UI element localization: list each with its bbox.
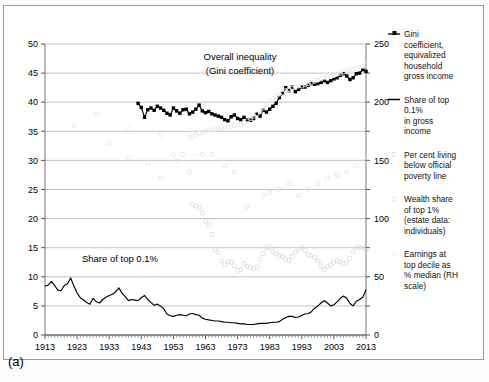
data-point (354, 164, 358, 168)
data-point (232, 170, 236, 174)
data-point (219, 258, 223, 262)
left-axis-tick-35: 35 (28, 127, 38, 137)
x-axis-tick-1913: 1913 (35, 342, 55, 352)
data-point (316, 259, 320, 263)
legend-label-wealth-share-top-1-3: individuals) (404, 226, 446, 236)
legend-marker-square-0 (393, 31, 397, 35)
data-point (264, 102, 268, 106)
data-point-marker (175, 109, 178, 112)
data-point-marker (162, 109, 165, 112)
data-point (290, 254, 294, 258)
left-axis-tick-10: 10 (28, 272, 38, 282)
data-point-marker (351, 76, 354, 79)
overall-inequality-line2: (Gini coefficient) (206, 65, 274, 76)
data-point-marker (229, 115, 232, 118)
data-point (187, 170, 191, 174)
share-top-01-label: Share of top 0.1% (82, 253, 159, 264)
legend-marker-circle-4 (392, 252, 396, 256)
data-point (200, 211, 204, 215)
data-point (303, 249, 307, 253)
data-point (258, 109, 262, 113)
data-point-marker (194, 107, 197, 110)
data-point (171, 152, 175, 156)
data-point-marker (223, 118, 226, 121)
legend-label-earnings-top-decile-2: % median (RH (404, 270, 458, 280)
x-axis-tick-1953: 1953 (163, 342, 183, 352)
legend-label-earnings-top-decile-1: top decile as (404, 260, 451, 270)
data-point (287, 182, 291, 186)
data-point-marker (329, 79, 332, 82)
data-point-marker (188, 112, 191, 115)
panel-label: (a) (8, 352, 24, 370)
data-point-marker (233, 113, 236, 116)
data-point-marker (358, 71, 361, 74)
data-point-marker (197, 103, 200, 106)
right-axis-tick-0: 0 (374, 330, 379, 340)
legend-label-per-cent-living-below-poverty-line-1: below official (404, 160, 452, 170)
data-point (345, 170, 349, 174)
data-point-marker (217, 114, 220, 117)
data-point-marker (178, 112, 181, 115)
legend-label-wealth-share-top-1-2: (estate data: (404, 215, 450, 225)
data-point-marker (152, 109, 155, 112)
data-point (335, 173, 339, 177)
left-axis-tick-50: 50 (28, 39, 38, 49)
legend-label-earnings-top-decile-0: Earnings at (404, 249, 447, 259)
legend-label-share-top-01-gross-income-3: income (404, 126, 431, 136)
data-point (223, 164, 227, 168)
data-point (181, 152, 185, 156)
data-point-marker (239, 118, 242, 121)
legend-label-gini-coefficient-3: household (404, 61, 443, 71)
data-point (261, 251, 265, 255)
left-axis-tick-0: 0 (33, 330, 38, 340)
data-point-marker (294, 90, 297, 93)
left-axis-tick-20: 20 (28, 214, 38, 224)
legend-label-wealth-share-top-1-0: Wealth share (404, 194, 453, 204)
data-point-marker (146, 108, 149, 111)
data-point-marker (181, 108, 184, 111)
legend-label-per-cent-living-below-poverty-line-2: poverty line (404, 171, 447, 181)
data-point-marker (210, 112, 213, 115)
data-point (126, 127, 130, 131)
data-point-marker (143, 116, 146, 119)
x-axis-tick-1923: 1923 (67, 342, 87, 352)
legend-label-gini-coefficient-0: Gini (404, 29, 419, 39)
data-point (319, 264, 323, 268)
data-point (316, 182, 320, 186)
data-point-marker (149, 106, 152, 109)
chart-svg: 0510152025303540455005010015020025019131… (0, 0, 489, 382)
data-point (210, 152, 214, 156)
right-axis-tick-100: 100 (374, 214, 389, 224)
data-point (216, 250, 220, 254)
data-point-marker (213, 113, 216, 116)
x-axis-tick-1963: 1963 (195, 342, 215, 352)
data-point-marker (140, 106, 143, 109)
legend-label-gini-coefficient-4: gross income (404, 71, 454, 81)
data-point-marker (236, 117, 239, 120)
data-point (126, 155, 130, 159)
data-point-marker (136, 102, 139, 105)
data-point-marker (185, 107, 188, 110)
data-point (210, 232, 214, 236)
data-point (258, 257, 262, 261)
data-point-marker (274, 102, 277, 105)
left-axis-tick-40: 40 (28, 97, 38, 107)
data-point (261, 193, 265, 197)
overall-inequality-line1: Overall inequality (204, 51, 277, 62)
data-point-marker (204, 111, 207, 114)
legend-label-gini-coefficient-2: equivalized (404, 50, 446, 60)
legend-marker-circle-3 (392, 197, 396, 201)
x-axis-tick-2003: 2003 (324, 342, 344, 352)
legend-label-share-top-01-gross-income-1: 0.1% (404, 105, 424, 115)
data-point (268, 190, 272, 194)
data-point-marker (265, 110, 268, 113)
legend-label-earnings-top-decile-3: scale) (404, 281, 426, 291)
x-axis-tick-1943: 1943 (131, 342, 151, 352)
data-point (313, 255, 317, 259)
data-point (207, 222, 211, 226)
data-point-marker (348, 78, 351, 81)
series-2 (191, 203, 369, 273)
data-point (325, 176, 329, 180)
data-point (296, 193, 300, 197)
data-point-marker (242, 116, 245, 119)
